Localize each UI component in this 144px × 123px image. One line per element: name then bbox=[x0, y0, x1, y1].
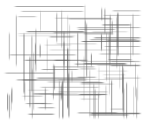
crosshatch-texture bbox=[0, 0, 144, 123]
